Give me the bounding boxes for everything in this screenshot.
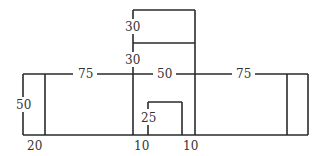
label-right-width: 75 [236, 67, 251, 81]
label-bottom-left-offset: 20 [27, 139, 42, 153]
dimension-diagram: 30 30 75 50 75 50 25 20 10 10 [0, 0, 323, 156]
label-upper-stem-height: 30 [125, 53, 140, 67]
label-bottom-mid-offset-a: 10 [134, 139, 149, 153]
label-small-box-height: 25 [141, 111, 156, 125]
label-left-width: 75 [78, 67, 93, 81]
label-left-height: 50 [16, 98, 31, 112]
right-section [287, 74, 308, 135]
label-middle-width: 50 [157, 67, 172, 81]
label-bottom-mid-offset-b: 10 [183, 139, 198, 153]
label-top-box-height: 30 [125, 20, 140, 34]
